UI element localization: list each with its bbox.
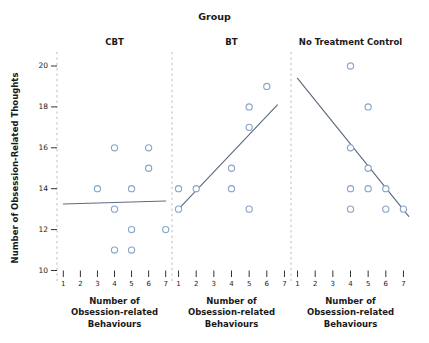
y-tick-label-18: 18 bbox=[38, 102, 48, 111]
data-point-p2-9 bbox=[400, 206, 406, 212]
data-point-p0-3 bbox=[111, 247, 117, 253]
x-tick-label-p1-4: 4 bbox=[229, 280, 234, 288]
panel-title-0: CBT bbox=[105, 37, 124, 47]
chart-group-title: Group bbox=[198, 11, 231, 22]
x-axis-label-p2-line2: Behaviours bbox=[324, 319, 378, 329]
data-point-p1-1 bbox=[175, 206, 181, 212]
data-point-p1-2 bbox=[193, 186, 199, 192]
data-point-p1-4 bbox=[228, 186, 234, 192]
y-tick-label-20: 20 bbox=[38, 61, 48, 70]
scatter-plot-svg: GroupCBTBTNo Treatment Control 101214161… bbox=[0, 0, 429, 343]
data-point-p1-0 bbox=[175, 186, 181, 192]
x-tick-label-p0-5: 5 bbox=[129, 280, 133, 288]
x-tick-label-p1-1: 1 bbox=[176, 280, 180, 288]
y-tick-label-12: 12 bbox=[38, 225, 48, 234]
x-axis-label-p2-line1: Obsession-related bbox=[307, 307, 394, 317]
x-tick-label-p2-2: 2 bbox=[313, 280, 317, 288]
data-point-p1-6 bbox=[246, 124, 252, 130]
x-tick-label-p2-7: 7 bbox=[401, 280, 405, 288]
data-point-p0-6 bbox=[128, 247, 134, 253]
x-tick-label-p1-6: 6 bbox=[265, 280, 270, 288]
panel-title-1: BT bbox=[225, 37, 237, 47]
data-point-p0-8 bbox=[146, 165, 152, 171]
data-point-p0-1 bbox=[111, 145, 117, 151]
x-tick-label-p0-4: 4 bbox=[112, 280, 117, 288]
x-axis-label-p0-line2: Behaviours bbox=[88, 319, 142, 329]
data-point-p0-7 bbox=[146, 145, 152, 151]
x-tick-label-p1-5: 5 bbox=[247, 280, 251, 288]
y-axis-label: Number of Obsession-Related Thoughts bbox=[10, 73, 20, 264]
data-point-p2-8 bbox=[383, 206, 389, 212]
x-axis-label-p1-line0: Number of bbox=[206, 296, 257, 306]
data-point-p1-5 bbox=[246, 104, 252, 110]
x-tick-label-p0-3: 3 bbox=[95, 280, 99, 288]
x-tick-label-p0-6: 6 bbox=[146, 280, 151, 288]
x-tick-label-p0-2: 2 bbox=[78, 280, 82, 288]
x-axis-label-p0-line0: Number of bbox=[89, 296, 140, 306]
panel-title-2: No Treatment Control bbox=[299, 37, 402, 47]
x-tick-label-p1-2: 2 bbox=[194, 280, 198, 288]
data-point-p1-8 bbox=[264, 83, 270, 89]
x-axis-labels-layer: Number ofObsession-relatedBehavioursNumb… bbox=[71, 296, 394, 329]
x-tick-label-p2-6: 6 bbox=[384, 280, 389, 288]
data-point-p0-2 bbox=[111, 206, 117, 212]
data-point-p2-6 bbox=[383, 186, 389, 192]
data-point-p1-7 bbox=[246, 206, 252, 212]
data-point-p2-4 bbox=[347, 186, 353, 192]
data-point-p2-3 bbox=[365, 165, 371, 171]
x-tick-label-p2-5: 5 bbox=[366, 280, 370, 288]
data-point-p0-5 bbox=[128, 227, 134, 233]
x-tick-label-p1-3: 3 bbox=[212, 280, 216, 288]
data-point-p2-7 bbox=[347, 206, 353, 212]
y-tick-label-14: 14 bbox=[38, 184, 48, 193]
x-axis-label-p0-line1: Obsession-related bbox=[71, 307, 158, 317]
x-axis-label-p1-line2: Behaviours bbox=[205, 319, 259, 329]
data-point-p0-9 bbox=[163, 227, 169, 233]
x-axis-label-p1-line1: Obsession-related bbox=[188, 307, 275, 317]
x-tick-label-p2-3: 3 bbox=[331, 280, 335, 288]
data-point-p2-1 bbox=[365, 104, 371, 110]
data-point-p2-5 bbox=[365, 186, 371, 192]
y-tick-label-10: 10 bbox=[38, 266, 48, 275]
x-tick-label-p0-7: 7 bbox=[163, 280, 167, 288]
data-point-p0-0 bbox=[94, 186, 100, 192]
x-tick-label-p2-1: 1 bbox=[295, 280, 299, 288]
data-point-p2-0 bbox=[347, 63, 353, 69]
y-axis-label-layer: Number of Obsession-Related Thoughts bbox=[10, 73, 20, 264]
x-tick-label-p1-7: 7 bbox=[282, 280, 286, 288]
data-point-p2-2 bbox=[347, 145, 353, 151]
data-point-p0-4 bbox=[128, 186, 134, 192]
x-axis-label-p2-line0: Number of bbox=[325, 296, 376, 306]
chart-figure: GroupCBTBTNo Treatment Control 101214161… bbox=[0, 0, 429, 343]
x-tick-label-p0-1: 1 bbox=[61, 280, 65, 288]
data-point-p1-3 bbox=[228, 165, 234, 171]
y-tick-label-16: 16 bbox=[38, 143, 48, 152]
x-tick-label-p2-4: 4 bbox=[348, 280, 353, 288]
